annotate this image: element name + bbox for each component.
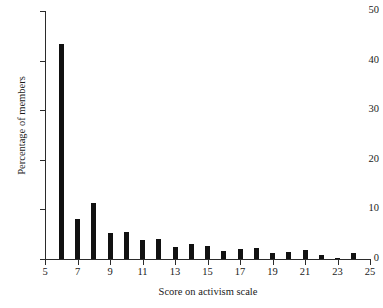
x-axis-tick-label: 17 <box>227 266 253 277</box>
x-axis-tick-label: 25 <box>357 266 383 277</box>
x-axis-tick-label: 13 <box>162 266 188 277</box>
x-axis-tick-label: 11 <box>130 266 156 277</box>
bar <box>189 244 194 259</box>
x-axis-tick-mark <box>143 260 144 265</box>
bar <box>303 250 308 259</box>
x-axis-tick-mark <box>240 260 241 265</box>
bar <box>335 258 340 259</box>
bar <box>254 248 259 259</box>
x-axis-tick-mark <box>208 260 209 265</box>
bar <box>221 251 226 259</box>
bar <box>156 239 161 259</box>
x-axis-tick-mark <box>45 260 46 265</box>
x-axis-tick-mark <box>338 260 339 265</box>
x-axis-tick-label: 15 <box>195 266 221 277</box>
bar <box>319 255 324 259</box>
x-axis-tick-mark <box>175 260 176 265</box>
x-axis-tick-mark <box>305 260 306 265</box>
x-axis-tick-mark <box>370 260 371 265</box>
y-axis-title: Percentage of members <box>16 51 27 201</box>
bar <box>91 203 96 259</box>
bar <box>59 44 64 259</box>
x-axis-tick-label: 19 <box>260 266 286 277</box>
bar <box>238 249 243 259</box>
bar <box>286 252 291 259</box>
x-axis-tick-mark <box>78 260 79 265</box>
x-axis-title: Score on activism scale <box>45 286 371 297</box>
x-axis-tick-label: 9 <box>97 266 123 277</box>
bar <box>205 246 210 259</box>
plot-area <box>45 11 370 259</box>
x-axis-tick-label: 7 <box>65 266 91 277</box>
bar <box>75 219 80 259</box>
bar <box>270 253 275 259</box>
bar <box>173 247 178 259</box>
bar <box>124 232 129 259</box>
x-axis-tick-mark <box>110 260 111 265</box>
bar <box>351 253 356 259</box>
bar <box>140 240 145 259</box>
x-axis-tick-label: 5 <box>32 266 58 277</box>
x-axis-tick-mark <box>273 260 274 265</box>
x-axis-tick-label: 23 <box>325 266 351 277</box>
bar <box>108 233 113 259</box>
x-axis-tick-label: 21 <box>292 266 318 277</box>
